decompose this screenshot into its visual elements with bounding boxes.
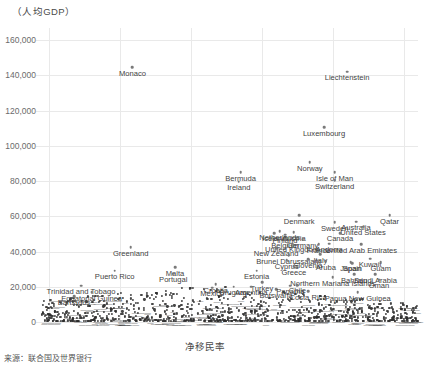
- data-point-label: ——: [226, 321, 239, 327]
- data-point-label: ———: [162, 320, 181, 326]
- data-point-label: United Arab Emirates: [325, 247, 397, 255]
- data-point-label: Croatia: [204, 287, 228, 295]
- data-point-label: Guam: [370, 265, 391, 273]
- gridline-horizontal: [36, 40, 418, 41]
- data-point-label: Ireland: [227, 184, 250, 192]
- data-point-label: Chile: [289, 287, 306, 295]
- data-point-label: ——: [112, 305, 125, 311]
- data-point-label: Bermuda: [225, 175, 256, 183]
- data-point-label: Barbados: [58, 299, 91, 307]
- data-point: [321, 303, 323, 305]
- data-point-label: ——: [249, 316, 262, 322]
- data-point: [383, 309, 385, 311]
- data-point: [132, 299, 134, 301]
- data-point-label: —: [147, 320, 153, 326]
- data-point-label: Liechtenstein: [325, 74, 370, 82]
- data-point: [175, 293, 177, 295]
- data-point: [187, 303, 189, 305]
- gridline-horizontal: [36, 146, 418, 147]
- data-point: [183, 297, 185, 299]
- y-axis-tick-label: 60,000: [0, 211, 36, 221]
- y-axis-tick-label: 80,000: [0, 176, 36, 186]
- data-point-label: Qatar: [380, 218, 399, 226]
- scatter-chart: （人均GDP） 020,00040,00060,00080,000100,000…: [0, 0, 425, 365]
- data-point: [237, 309, 239, 311]
- data-point-label: ———: [93, 308, 112, 314]
- source-note: 来源：联合国及世界银行: [4, 352, 92, 363]
- data-point-label: ———: [153, 303, 172, 309]
- data-point-label: ———: [281, 317, 300, 323]
- data-point: [125, 312, 127, 314]
- data-point: [171, 297, 173, 299]
- data-point: [181, 287, 183, 289]
- gridline-vertical: [191, 28, 192, 322]
- data-point-label: Spain: [343, 265, 362, 273]
- data-point-label: —: [359, 310, 365, 316]
- data-point-label: Switzerland: [315, 183, 354, 191]
- data-point: [120, 313, 122, 315]
- data-point-label: Greece: [281, 269, 306, 277]
- data-point: [193, 301, 195, 303]
- data-point-label: —: [170, 309, 176, 315]
- data-point: [395, 310, 397, 312]
- data-point: [43, 300, 45, 302]
- data-point: [143, 298, 145, 300]
- data-point: [181, 300, 183, 302]
- data-point-label: Estonia: [244, 273, 269, 281]
- data-point: [393, 311, 395, 313]
- data-point-label: —: [271, 306, 277, 312]
- data-point-label: ———: [181, 317, 200, 323]
- data-point: [130, 303, 132, 305]
- data-point-label: ——: [74, 319, 87, 325]
- data-point-label: ——: [345, 306, 358, 312]
- data-point-label: —: [263, 322, 269, 328]
- gridline-vertical: [404, 28, 405, 322]
- data-point: [190, 308, 192, 310]
- data-point-label: Canada: [327, 235, 354, 243]
- data-point: [172, 293, 174, 295]
- data-point: [230, 311, 232, 313]
- data-point: [165, 290, 167, 292]
- data-point: [180, 304, 182, 306]
- data-point: [392, 308, 394, 310]
- data-point-label: —: [99, 321, 105, 327]
- data-point-label: —: [119, 322, 125, 328]
- data-point: [165, 293, 167, 295]
- y-axis-tick-label: 0: [0, 317, 36, 327]
- y-axis-tick-label: 20,000: [0, 282, 36, 292]
- data-point-label: Puerto Rico: [95, 273, 135, 281]
- data-point: [151, 294, 153, 296]
- data-point-label: ——: [129, 313, 142, 319]
- y-axis-title: （人均GDP）: [12, 4, 75, 18]
- y-axis-tick-label: 120,000: [0, 106, 36, 116]
- data-point: [385, 313, 387, 315]
- data-point: [42, 303, 44, 305]
- data-point-label: ———: [399, 320, 418, 326]
- data-point: [372, 312, 374, 314]
- data-point-label: ———: [42, 320, 61, 326]
- y-axis-tick-label: 140,000: [0, 70, 36, 80]
- data-point-label: Monaco: [119, 70, 146, 78]
- gridline-horizontal: [36, 216, 418, 217]
- data-point-label: ———: [313, 315, 332, 321]
- data-point-label: Papua New Guinea: [325, 295, 391, 303]
- data-point-label: Greenland: [113, 250, 148, 258]
- data-point: [388, 307, 390, 309]
- data-point: [224, 310, 226, 312]
- data-point: [253, 298, 255, 300]
- data-point: [130, 294, 132, 296]
- data-point-label: Luxembourg: [303, 130, 345, 138]
- data-point: [161, 294, 163, 296]
- y-axis-tick-label: 40,000: [0, 247, 36, 257]
- data-point: [133, 304, 135, 306]
- y-axis-tick-label: 100,000: [0, 141, 36, 151]
- data-point-label: Portugal: [159, 276, 187, 284]
- data-point-label: ——: [199, 311, 212, 317]
- data-point-label: —: [353, 321, 359, 327]
- data-point-label: Denmark: [284, 218, 315, 226]
- gridline-vertical: [49, 28, 50, 322]
- data-point: [228, 312, 230, 314]
- data-point: [149, 297, 151, 299]
- data-point: [153, 298, 155, 300]
- plot-area: 020,00040,00060,00080,000100,000120,0001…: [42, 40, 418, 322]
